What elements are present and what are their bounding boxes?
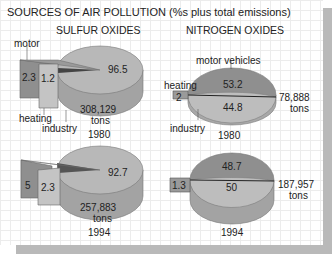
sulfur-1980-motor-value: 2.3	[22, 72, 36, 83]
sulfur-1980-total: 308,129	[80, 104, 116, 115]
nitrogen-1980-industry-value: 44.8	[223, 102, 242, 113]
sulfur-1980-industry-value: 96.5	[108, 64, 127, 75]
nitrogen-1994-total: 187,957	[278, 179, 314, 190]
nitrogen-1980-heating-value: 2	[176, 92, 182, 103]
chart-panel: SOURCES OF AIR POLLUTION (%s plus total …	[0, 0, 323, 245]
nitrogen-1994-industry-value: 50	[226, 182, 237, 193]
nitrogen-oxides-heading: NITROGEN OXIDES	[186, 25, 284, 36]
panel-shadow-bottom	[16, 245, 332, 254]
label-industry: industry	[42, 123, 77, 134]
sulfur-1980-heating-value: 1.2	[41, 73, 55, 84]
nitrogen-1980-pie	[173, 61, 276, 125]
sulfur-1980-tons: tons	[91, 115, 110, 126]
label-industry-nitrogen: industry	[170, 123, 205, 134]
nitrogen-1980-total: 78,888	[279, 92, 310, 103]
sulfur-oxides-heading: SULFUR OXIDES	[56, 25, 141, 36]
nitrogen-1980-motor-value: 53.2	[223, 79, 242, 90]
sulfur-1994-year: 1994	[88, 227, 110, 238]
nitrogen-1980-tons: tons	[290, 103, 309, 114]
sulfur-1994-industry-value: 92.7	[108, 167, 127, 178]
sulfur-1994-motor-value: 5	[25, 180, 31, 191]
label-motor: motor	[14, 38, 40, 49]
sulfur-1994-tons: tons	[93, 213, 112, 224]
nitrogen-1980-year: 1980	[218, 130, 240, 141]
label-motor-vehicles: motor vehicles	[196, 55, 260, 66]
chart-title: SOURCES OF AIR POLLUTION (%s plus total …	[7, 6, 291, 19]
label-heating-nitrogen: heating	[164, 80, 197, 91]
sulfur-1994-total: 257,883	[80, 202, 116, 213]
sulfur-1994-heating-value: 2.3	[41, 182, 55, 193]
sulfur-1980-year: 1980	[88, 129, 110, 140]
panel-shadow-right	[323, 8, 332, 254]
nitrogen-1994-year: 1994	[221, 227, 243, 238]
nitrogen-1994-heating-value: 1.3	[172, 180, 186, 191]
nitrogen-1994-motor-value: 48.7	[222, 161, 241, 172]
nitrogen-1994-tons: tons	[289, 190, 308, 201]
